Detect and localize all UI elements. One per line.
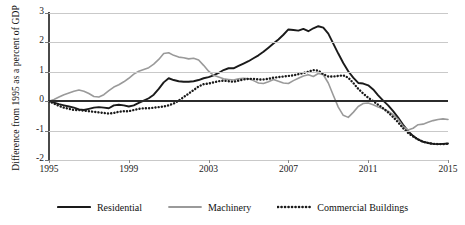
x-tick-mark <box>288 160 289 163</box>
plot-area <box>49 13 448 160</box>
y-tick-label: 2 <box>22 35 44 45</box>
y-tick-mark <box>45 72 49 73</box>
x-tick-label: 2011 <box>348 164 388 174</box>
series-lines <box>49 13 448 160</box>
legend-label: Machinery <box>208 202 251 213</box>
x-tick-label: 1995 <box>29 164 69 174</box>
x-tick-mark <box>209 160 210 163</box>
gridline <box>49 13 448 14</box>
y-tick-label: 3 <box>22 6 44 16</box>
x-tick-label: 2003 <box>189 164 229 174</box>
series-line-machinery <box>49 53 448 130</box>
legend-item-residential[interactable]: Residential <box>57 202 142 213</box>
y-axis-tick-labels: 3210-1-2 <box>0 0 44 175</box>
x-tick-label: 1999 <box>109 164 149 174</box>
x-tick-mark <box>49 160 50 163</box>
y-tick-mark <box>45 101 49 102</box>
x-tick-mark <box>448 160 449 163</box>
x-tick-mark <box>368 160 369 163</box>
gridline <box>49 160 448 161</box>
y-tick-mark <box>45 160 49 161</box>
legend-swatch-icon <box>57 203 91 211</box>
x-tick-label: 2015 <box>428 164 465 174</box>
legend-item-machinery[interactable]: Machinery <box>168 202 251 213</box>
y-tick-label: 0 <box>22 94 44 104</box>
y-tick-mark <box>45 131 49 132</box>
series-line-residential <box>49 26 448 144</box>
chart-legend: ResidentialMachineryCommercial Buildings <box>0 196 465 218</box>
gridline <box>49 72 448 73</box>
y-tick-label: -2 <box>22 153 44 163</box>
y-tick-mark <box>45 13 49 14</box>
series-line-commercial-buildings <box>49 70 448 144</box>
legend-swatch-icon <box>168 203 202 211</box>
legend-label: Commercial Buildings <box>317 202 408 213</box>
y-tick-label: -1 <box>22 124 44 134</box>
y-tick-mark <box>45 42 49 43</box>
gridline <box>49 42 448 43</box>
legend-item-commercial-buildings[interactable]: Commercial Buildings <box>277 202 408 213</box>
chart-figure: Difference from 1995 as a percent of GDP… <box>0 0 465 225</box>
y-tick-label: 1 <box>22 65 44 75</box>
x-tick-label: 2007 <box>268 164 308 174</box>
gridline <box>49 131 448 132</box>
x-tick-mark <box>129 160 130 163</box>
zero-line <box>49 100 448 102</box>
legend-label: Residential <box>97 202 142 213</box>
legend-swatch-icon <box>277 203 311 211</box>
